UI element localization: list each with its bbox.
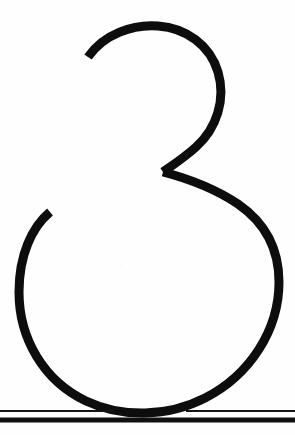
numeral-specimen-canvas — [0, 0, 295, 435]
specimen-page — [0, 0, 295, 435]
